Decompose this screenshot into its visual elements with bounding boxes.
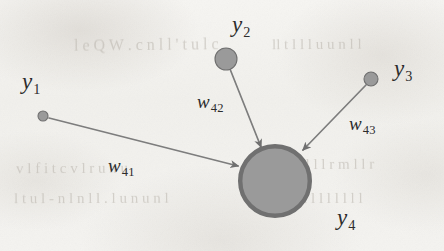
label-subscript: 43: [362, 123, 376, 137]
label-base: w: [108, 155, 121, 176]
node-label-y3: y3: [394, 57, 413, 83]
node-y1: [38, 111, 48, 121]
label-base: y: [337, 205, 347, 230]
graph-svg: [0, 0, 444, 251]
label-subscript: 1: [32, 81, 40, 97]
node-y4: [240, 146, 310, 216]
label-base: w: [349, 113, 362, 134]
label-subscript: 3: [404, 68, 412, 84]
node-label-y2: y2: [232, 13, 251, 39]
node-y3: [364, 72, 378, 86]
edge-w41: [49, 118, 238, 166]
nodes-group: [38, 48, 378, 216]
label-base: y: [232, 12, 242, 37]
label-subscript: 4: [347, 217, 355, 233]
node-label-y1: y1: [22, 70, 41, 96]
label-subscript: 42: [210, 101, 224, 115]
label-subscript: 41: [121, 165, 135, 179]
edges-group: [49, 69, 366, 166]
label-base: w: [197, 91, 210, 112]
node-label-y4: y4: [337, 206, 356, 232]
edge-w42: [230, 69, 261, 147]
label-subscript: 2: [242, 24, 250, 40]
weight-label-w41: w41: [108, 156, 135, 179]
weight-label-w42: w42: [197, 92, 224, 115]
label-base: y: [394, 56, 404, 81]
node-y2: [215, 48, 237, 70]
figure-canvas: l e Q W . c n l l ' t u l c ll t l l l u…: [0, 0, 444, 251]
weight-label-w43: w43: [349, 114, 376, 137]
label-base: y: [22, 69, 32, 94]
